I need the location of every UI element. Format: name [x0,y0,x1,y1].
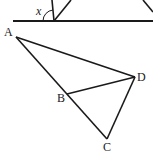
angle-arc [43,10,53,21]
segment-BD [67,77,135,94]
ray-far-right [143,0,153,12]
geometry-diagram-svg: x A B C D [0,0,153,151]
point-label-C: C [103,140,111,151]
ray-right [54,0,71,21]
point-label-B: B [57,91,65,105]
angle-label-x: x [35,4,42,18]
point-label-A: A [4,25,13,39]
point-label-D: D [137,70,146,84]
top-figure [13,0,153,21]
geometry-figure: x A B C D [0,0,153,151]
segment-DC [107,77,135,139]
bottom-figure [16,37,135,139]
